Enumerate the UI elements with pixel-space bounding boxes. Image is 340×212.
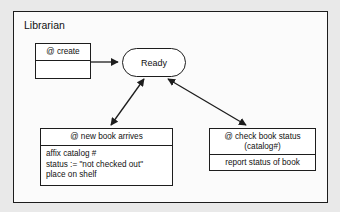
operation-body-line: report status of book [210, 158, 315, 169]
operation-header-line: @ check book status [212, 132, 313, 142]
operation-check-status-body: report status of book [210, 154, 315, 172]
operation-create-body [36, 60, 90, 81]
operation-box-check-book-status[interactable]: @ check book status (catalog#) report st… [209, 128, 316, 171]
operation-new-book-header: @ new book arrives [41, 129, 172, 145]
operation-body-line: place on shelf [46, 170, 172, 181]
diagram-canvas: Librarian @ create Ready @ new bo [0, 0, 340, 212]
operation-body-line: status := "not checked out" [46, 160, 172, 171]
state-node-label: Ready [141, 58, 167, 68]
operation-new-book-body: affix catalog # status := "not checked o… [41, 145, 172, 184]
frame-title-label: Librarian [24, 19, 65, 31]
operation-check-status-header: @ check book status (catalog#) [210, 129, 315, 154]
operation-create-header: @ create [36, 44, 90, 60]
operation-body-line: affix catalog # [46, 149, 172, 160]
operation-header-line: (catalog#) [212, 142, 313, 152]
state-node-ready[interactable]: Ready [122, 48, 186, 77]
operation-box-new-book-arrives[interactable]: @ new book arrives affix catalog # statu… [40, 128, 173, 186]
operation-box-create[interactable]: @ create [35, 43, 91, 79]
